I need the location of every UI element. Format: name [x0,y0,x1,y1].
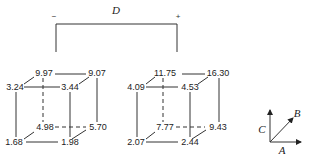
bracket-line [56,24,177,52]
cube-d-plus: 11.75 16.30 4.09 4.53 7.77 9.43 2.07 2.4… [127,68,229,147]
axis-b-label: B [294,107,301,119]
vertex-back-bottom-right: 5.70 [89,122,107,132]
vertex-back-top-right: 16.30 [207,68,230,78]
vertex-front-top-left: 4.09 [127,82,145,92]
minus-sign: − [52,12,57,21]
cube-d-minus: 9.97 9.07 3.24 3.44 4.98 5.70 1.68 1.98 [5,68,107,147]
vertex-back-bottom-right: 9.43 [209,122,227,132]
vertex-back-top-right: 9.07 [88,68,106,78]
axis-c-label: C [258,123,266,135]
cube-plot-diagram: − + D 9.97 9.07 3.24 3.44 4.98 5.70 1.68… [0,0,311,160]
vertex-front-top-left: 3.24 [6,82,24,92]
vertex-front-top-right: 3.44 [61,82,79,92]
vertex-front-bottom-left: 1.68 [5,137,23,147]
plus-sign: + [176,12,181,21]
arrow-b-icon [270,118,293,142]
vertex-front-bottom-right: 2.44 [181,137,199,147]
axis-a-label: A [278,144,286,156]
vertex-back-top-left: 9.97 [35,68,53,78]
vertex-back-bottom-left: 4.98 [36,122,54,132]
axis-key: A B C [258,107,301,156]
factor-d-label: D [111,4,120,16]
vertex-front-top-right: 4.53 [181,82,199,92]
vertex-front-bottom-left: 2.07 [127,137,145,147]
factor-d-bracket: − + D [52,4,181,52]
vertex-front-bottom-right: 1.98 [61,137,79,147]
vertex-back-bottom-left: 7.77 [156,122,174,132]
vertex-back-top-left: 11.75 [154,68,176,78]
